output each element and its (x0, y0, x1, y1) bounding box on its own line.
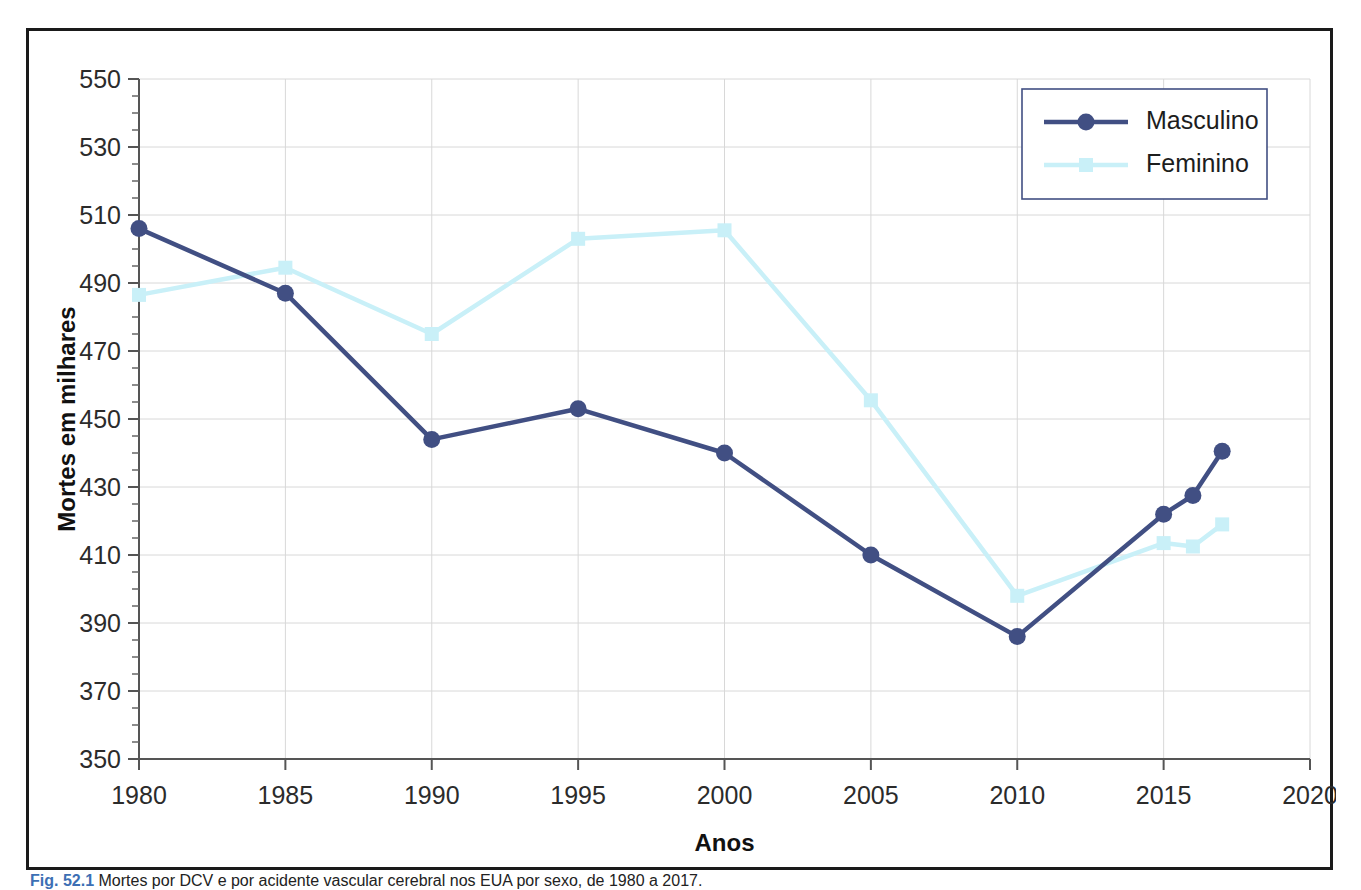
x-tick-label: 1995 (550, 781, 606, 809)
data-point-masculino (570, 400, 587, 417)
data-point-feminino (278, 261, 292, 275)
data-point-masculino (1009, 628, 1026, 645)
data-point-masculino (1184, 487, 1201, 504)
figure-caption: Fig. 52.1 Mortes por DCV e por acidente … (30, 872, 1350, 890)
data-point-feminino (571, 232, 585, 246)
y-tick-label: 530 (79, 133, 121, 161)
data-point-masculino (1214, 443, 1231, 460)
y-tick-label: 350 (79, 745, 121, 773)
data-point-masculino (862, 547, 879, 564)
figure-frame: 3503703904104304504704905105305501980198… (26, 28, 1333, 870)
legend-marker-feminino (1079, 158, 1093, 172)
caption-body: Mortes por DCV e por acidente vascular c… (98, 872, 702, 889)
legend-label-masculino: Masculino (1146, 106, 1259, 134)
y-tick-label: 470 (79, 337, 121, 365)
data-point-masculino (1155, 506, 1172, 523)
x-tick-label: 1980 (111, 781, 167, 809)
data-point-feminino (1186, 540, 1200, 554)
legend-marker-masculino (1078, 114, 1095, 131)
data-point-feminino (1157, 536, 1171, 550)
data-point-masculino (716, 445, 733, 462)
data-point-feminino (132, 288, 146, 302)
y-tick-label: 490 (79, 269, 121, 297)
data-point-feminino (864, 393, 878, 407)
series-line-masculino (139, 229, 1222, 637)
y-tick-label: 550 (79, 65, 121, 93)
x-tick-label: 2015 (1136, 781, 1192, 809)
line-chart: 3503703904104304504704905105305501980198… (29, 31, 1336, 873)
data-point-masculino (277, 285, 294, 302)
x-tick-label: 1985 (258, 781, 314, 809)
x-tick-label: 2020 (1282, 781, 1336, 809)
y-tick-label: 370 (79, 677, 121, 705)
data-point-feminino (1215, 517, 1229, 531)
x-tick-label: 2010 (989, 781, 1045, 809)
data-point-masculino (131, 220, 148, 237)
x-tick-label: 1990 (404, 781, 460, 809)
data-point-feminino (1010, 589, 1024, 603)
y-axis-title: Mortes em milhares (53, 306, 80, 531)
y-tick-label: 430 (79, 473, 121, 501)
y-tick-label: 390 (79, 609, 121, 637)
y-tick-label: 450 (79, 405, 121, 433)
data-point-masculino (423, 431, 440, 448)
x-axis-title: Anos (695, 829, 755, 856)
y-tick-label: 410 (79, 541, 121, 569)
caption-figure-number: Fig. 52.1 (30, 872, 94, 889)
y-tick-label: 510 (79, 201, 121, 229)
data-point-feminino (425, 327, 439, 341)
x-tick-label: 2005 (843, 781, 899, 809)
x-tick-label: 2000 (697, 781, 753, 809)
data-point-feminino (718, 223, 732, 237)
legend-label-feminino: Feminino (1146, 149, 1249, 177)
chart-plot-area: 3503703904104304504704905105305501980198… (29, 31, 1336, 873)
series-line-feminino (139, 230, 1222, 596)
